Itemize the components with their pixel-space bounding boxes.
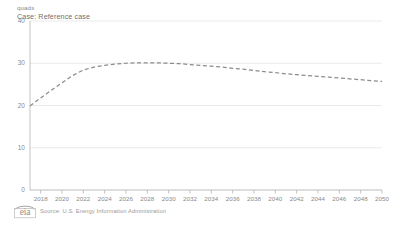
y-axis-tick-label: 10 [7, 144, 25, 151]
y-axis-tick-label: 20 [7, 102, 25, 109]
x-axis-tick-label: 2020 [52, 195, 72, 202]
x-axis-tick-label: 2028 [137, 195, 157, 202]
eia-logo-text: eia [13, 207, 37, 217]
eia-logo: eia [13, 204, 37, 219]
x-axis-tick-label: 2046 [329, 195, 349, 202]
x-axis-tick-label: 2042 [287, 195, 307, 202]
x-axis-tick-label: 2036 [223, 195, 243, 202]
source-attribution: Source: U.S. Energy Information Administ… [40, 208, 166, 214]
x-axis-tick-label: 2022 [73, 195, 93, 202]
x-axis-tick-label: 2040 [265, 195, 285, 202]
data-series-line [30, 63, 382, 106]
x-axis-tick-label: 2032 [180, 195, 200, 202]
x-axis-tick-label: 2044 [308, 195, 328, 202]
x-axis-tick-label: 2048 [351, 195, 371, 202]
plot-area [0, 0, 396, 225]
x-axis-tick-label: 2018 [31, 195, 51, 202]
x-axis-tick-label: 2050 [372, 195, 392, 202]
y-axis-tick-label: 0 [7, 186, 25, 193]
x-axis-tick-label: 2038 [244, 195, 264, 202]
x-axis-tick-label: 2026 [116, 195, 136, 202]
x-axis-tick-label: 2030 [159, 195, 179, 202]
chart-container: quads Case: Reference case 010203040 201… [0, 0, 396, 225]
y-axis-tick-label: 40 [7, 17, 25, 24]
x-axis-tick-label: 2024 [95, 195, 115, 202]
x-axis-tick-label: 2034 [201, 195, 221, 202]
y-axis-tick-label: 30 [7, 59, 25, 66]
